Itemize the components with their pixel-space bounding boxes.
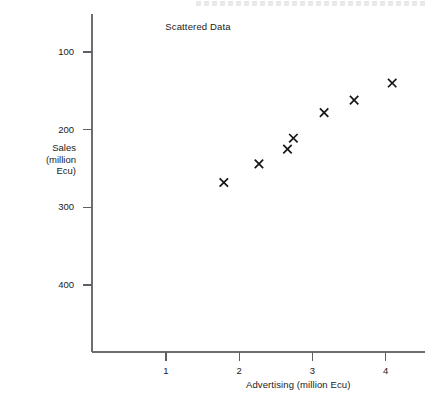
axes-group [92,14,425,352]
x-tick-label: 2 [227,365,251,376]
y-tick-label: 300 [34,201,74,212]
y-axis-title-line-3: Ecu) [4,165,76,177]
x-tick-label: 4 [374,365,398,376]
data-point-marker [320,108,328,116]
data-point-marker [255,160,263,168]
data-point-markers [220,79,397,187]
y-axis-title: Sales (million Ecu) [4,142,76,177]
x-tick-label: 3 [300,365,324,376]
data-point-marker [289,134,297,142]
x-axis-title: Advertising (million Ecu) [246,379,350,390]
data-point-marker [350,96,358,104]
data-point-marker [388,79,396,87]
y-tick-label: 200 [34,124,74,135]
scatter-plot-figure: Scattered Data 400300200100 1234 Sales (… [0,0,442,413]
x-axis-ticks [166,352,386,361]
y-tick-label: 100 [34,46,74,57]
data-point-marker [220,178,228,186]
y-axis-title-line-2: (million [4,154,76,166]
y-axis-ticks [83,52,92,285]
x-tick-label: 1 [154,365,178,376]
y-tick-label: 400 [34,279,74,290]
y-axis-title-line-1: Sales [4,142,76,154]
data-point-marker [283,145,291,153]
